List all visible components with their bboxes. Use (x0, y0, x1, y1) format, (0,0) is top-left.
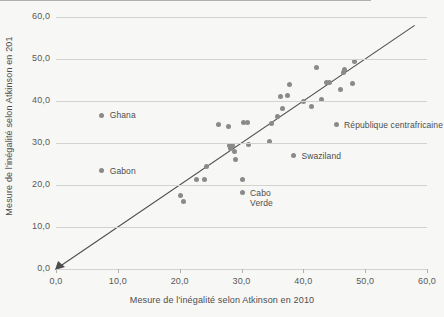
data-point-swaziland (291, 153, 296, 158)
data-point (285, 93, 290, 98)
x-axis-tick (242, 269, 243, 273)
x-axis-tick (118, 269, 119, 273)
gridline-y-400 (56, 101, 427, 102)
data-point (194, 177, 199, 182)
y-tick-label: 0,0 (4, 264, 50, 273)
y-tick-label: 20,0 (4, 180, 50, 189)
data-point (269, 121, 274, 126)
x-axis-tick (365, 269, 366, 273)
x-axis-tick (56, 269, 57, 273)
x-axis-tick (180, 269, 181, 273)
point-label-ghana: Ghana (110, 110, 136, 120)
data-point-cabo-verde (240, 190, 245, 195)
x-tick-label: 0,0 (36, 277, 76, 286)
data-point (280, 106, 285, 111)
point-label-cabo-verde: CaboVerde (250, 188, 273, 208)
data-point (202, 177, 207, 182)
gridline-y-200 (56, 185, 427, 186)
x-axis-title: Mesure de l'inégalité selon Atkinson en … (0, 295, 444, 305)
x-tick-label: 40,0 (283, 277, 323, 286)
gridline-y-600 (56, 17, 427, 18)
data-point (350, 81, 355, 86)
x-tick-label: 20,0 (160, 277, 200, 286)
gridline-y-500 (56, 59, 427, 60)
x-tick-label: 10,0 (98, 277, 138, 286)
data-point (338, 87, 343, 92)
point-label-gabon: Gabon (110, 166, 136, 176)
gridline-y-300 (56, 143, 427, 144)
gridline-y-100 (56, 227, 427, 228)
x-axis-tick (303, 269, 304, 273)
y-tick-label: 60,0 (4, 12, 50, 21)
point-label-république-centrafricaine: République centrafricaine (344, 120, 443, 130)
y-tick-label: 50,0 (4, 54, 50, 63)
y-axis-title: Mesure de l'inégalité selon Atkinson en … (2, 0, 16, 252)
data-point (216, 122, 221, 127)
y-tick-label: 10,0 (4, 222, 50, 231)
x-axis-tick (427, 269, 428, 273)
x-axis-line (0, 0, 371, 1)
point-label-swaziland: Swaziland (301, 151, 341, 161)
data-point (278, 94, 283, 99)
scatter-chart: Mesure de l'inégalité selon Atkinson en … (0, 0, 444, 317)
x-tick-label: 30,0 (222, 277, 262, 286)
y-tick-label: 40,0 (4, 96, 50, 105)
x-tick-label: 60,0 (407, 277, 444, 286)
x-tick-label: 50,0 (345, 277, 385, 286)
data-point-république-centrafricaine (334, 122, 339, 127)
y-tick-label: 30,0 (4, 138, 50, 147)
